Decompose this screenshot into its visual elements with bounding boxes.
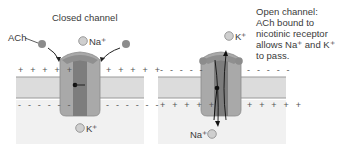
closed-channel-title: Closed channel [52, 12, 118, 23]
na-label-open: Na⁺ [190, 129, 207, 140]
na-label-closed: Na⁺ [89, 36, 106, 47]
open-outside-charge-left: - - - - - [160, 65, 205, 75]
caption-line: ACh bound to [256, 17, 335, 28]
closed-inside-charge-right: - - - - - - [106, 100, 161, 110]
na-ion-open [208, 130, 217, 139]
caption-line: allows Na⁺ and K⁺ [256, 39, 335, 50]
open-inside-charge-left: + + + + + [160, 100, 216, 110]
k-label-closed: K⁺ [86, 123, 97, 134]
closed-outside-charge-right: + + + + + [106, 65, 162, 75]
open-inside-charge-right: + + + + + [247, 100, 303, 110]
k-label-open: K⁺ [235, 31, 246, 42]
caption-line: Open channel: [256, 6, 335, 17]
closed-inside-charge-left: - - - - - - [18, 100, 73, 110]
k-ion-open [225, 32, 234, 41]
ach-molecule-left [38, 40, 46, 48]
k-ion-closed [76, 124, 85, 133]
ach-bound-right [235, 57, 243, 65]
open-outside-charge-right: - - - - - [247, 65, 292, 75]
ach-bound-left [199, 57, 207, 65]
ach-molecule-right [122, 40, 130, 48]
caption-line: nicotinic receptor [256, 28, 335, 39]
closed-outside-charge-left: + + + + + [18, 65, 74, 75]
open-channel-icon [199, 50, 243, 127]
ach-label: ACh [8, 32, 26, 43]
open-channel-caption: Open channel: ACh bound to nicotinic rec… [256, 6, 335, 61]
caption-line: to pass. [256, 50, 335, 61]
na-ion-closed [79, 37, 88, 46]
